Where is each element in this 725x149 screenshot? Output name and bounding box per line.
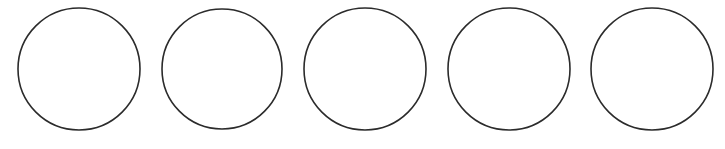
circles-diagram: [0, 0, 725, 149]
circle-2: [162, 9, 282, 129]
circle-4: [448, 8, 570, 130]
circle-3: [304, 8, 426, 130]
circle-1: [18, 8, 140, 130]
circle-5: [591, 8, 713, 130]
